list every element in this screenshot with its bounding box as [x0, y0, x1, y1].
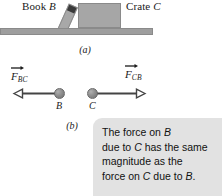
crate-label-text: Crate: [126, 0, 153, 12]
book-label-symbol: B: [49, 0, 56, 12]
panel-a-caption: (a): [0, 44, 170, 55]
panel-b-caption: (b): [52, 120, 92, 131]
particle-b-label: B: [56, 100, 62, 111]
force-cb-subscript: CB: [132, 73, 142, 82]
panel-a-scene: Book B Crate C (a): [0, 0, 222, 62]
force-bc-label: FBC: [11, 70, 28, 84]
crate-label: Crate C: [126, 0, 161, 12]
book-label-text: Book: [22, 0, 49, 12]
callout-line-2: due to C has the same: [102, 140, 216, 155]
force-cb-arrowhead: [137, 89, 146, 98]
callout-line-4: force on C due to B.: [102, 169, 216, 184]
force-cb-label: FCB: [125, 68, 142, 82]
force-cb-symbol: F: [125, 68, 132, 80]
particle-c: [87, 88, 98, 99]
force-bc-subscript: BC: [18, 75, 28, 84]
book-spine: [67, 5, 77, 14]
callout-line-3: magnitude as the: [102, 154, 216, 169]
crate-shape: [78, 3, 121, 28]
force-bc-symbol: F: [11, 70, 18, 82]
ground-surface: [0, 28, 153, 35]
physics-figure-newtons-third-law: Book B Crate C (a) B C: [0, 0, 222, 196]
force-bc-arrowhead: [14, 89, 23, 98]
particle-b: [54, 88, 65, 99]
crate-label-symbol: C: [153, 0, 160, 12]
book-label: Book B: [22, 0, 56, 12]
particle-c-label: C: [89, 100, 96, 111]
explanation-callout: The force on B due to C has the same mag…: [93, 118, 222, 196]
callout-line-1: The force on B: [102, 125, 216, 140]
